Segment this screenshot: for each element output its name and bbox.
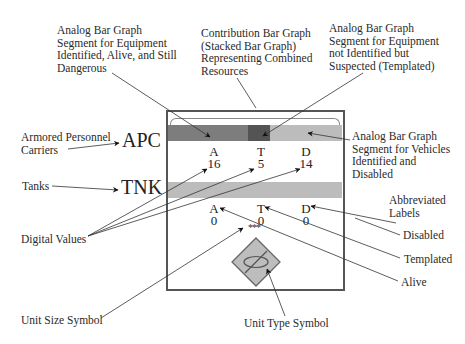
- leader-lines: [0, 0, 465, 344]
